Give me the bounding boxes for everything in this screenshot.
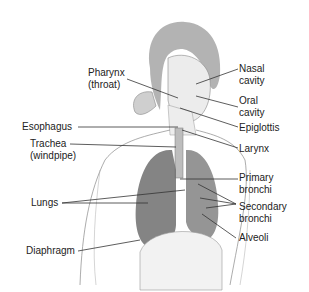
label-esophagus: Esophagus: [22, 121, 72, 133]
label-epiglottis: Epiglottis: [239, 122, 280, 134]
label-secondary-bronchi: Secondary bronchi: [239, 201, 287, 225]
label-larynx: Larynx: [239, 143, 269, 155]
right-lung-shape: [186, 150, 218, 240]
label-line: Diaphragm: [26, 245, 75, 257]
label-line: Larynx: [239, 143, 269, 155]
label-line: (throat): [88, 79, 125, 91]
label-line: Esophagus: [22, 121, 72, 133]
trachea-shape: [175, 128, 183, 178]
label-line: Secondary: [239, 201, 287, 213]
label-line: cavity: [239, 75, 265, 87]
label-lungs: Lungs: [31, 197, 58, 209]
label-line: (windpipe): [30, 150, 76, 162]
label-nasal-cavity: Nasal cavity: [239, 63, 265, 87]
label-line: bronchi: [239, 184, 273, 196]
label-line: Trachea: [30, 138, 76, 150]
label-line: Epiglottis: [239, 122, 280, 134]
label-line: Alveoli: [239, 232, 268, 244]
label-diaphragm: Diaphragm: [26, 245, 75, 257]
respiratory-diagram: Pharynx (throat) Nasal cavity Oral cavit…: [0, 0, 309, 292]
label-line: Lungs: [31, 197, 58, 209]
label-alveoli: Alveoli: [239, 232, 268, 244]
label-pharynx: Pharynx (throat): [88, 67, 125, 91]
label-trachea: Trachea (windpipe): [30, 138, 76, 162]
label-line: Nasal: [239, 63, 265, 75]
label-primary-bronchi: Primary bronchi: [239, 172, 273, 196]
label-oral-cavity: Oral cavity: [239, 95, 265, 119]
label-line: Primary: [239, 172, 273, 184]
label-line: Pharynx: [88, 67, 125, 79]
label-line: cavity: [239, 107, 265, 119]
label-line: Oral: [239, 95, 265, 107]
label-line: bronchi: [239, 213, 287, 225]
diaphragm-shape: [140, 231, 222, 290]
ponytail-shape: [134, 92, 156, 115]
